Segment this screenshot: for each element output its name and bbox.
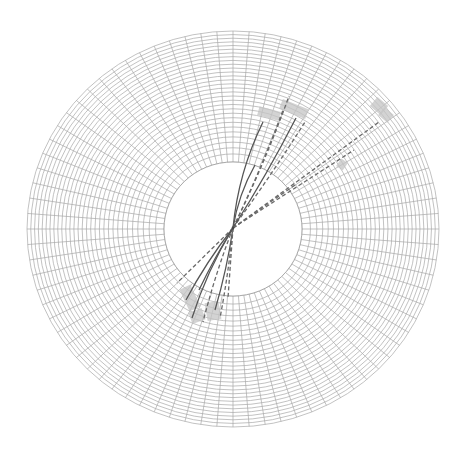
hit-cell (279, 99, 309, 119)
event-display (0, 0, 463, 449)
detector-cross-section (0, 0, 463, 449)
hit-cell (205, 301, 222, 321)
primary-vertex (232, 227, 235, 230)
